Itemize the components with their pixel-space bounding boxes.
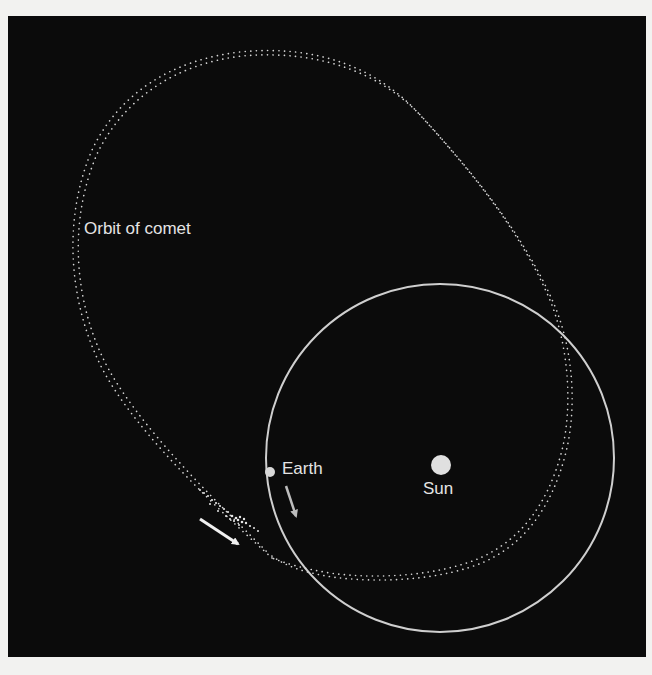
comet-orbit-path (73, 51, 572, 580)
earth-icon (265, 467, 275, 477)
comet-direction-arrow-icon (200, 519, 238, 544)
sun-label: Sun (423, 480, 453, 497)
earth-label: Earth (282, 460, 323, 477)
sun-icon (431, 455, 451, 475)
orbit-diagram (0, 0, 652, 675)
earth-direction-arrow-icon (286, 486, 296, 516)
orbit-of-comet-label: Orbit of comet (84, 220, 191, 237)
